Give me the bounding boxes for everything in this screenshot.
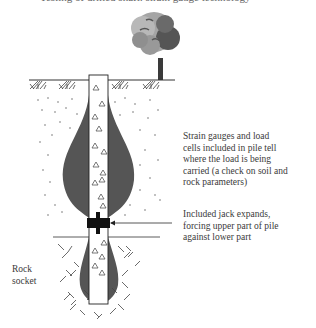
jack-icon [87, 212, 172, 234]
jack-label: Included jack expands, forcing upper par… [183, 209, 313, 244]
strain-gauges-label: Strain gauges and load cells included in… [183, 131, 313, 189]
tree-icon [131, 12, 180, 80]
rock-socket-label: Rock socket [12, 264, 52, 287]
pile-shaft [89, 75, 108, 304]
